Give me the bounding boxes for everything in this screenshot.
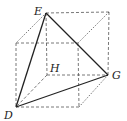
label-e: E bbox=[33, 5, 42, 18]
label-h: H bbox=[49, 62, 60, 75]
label-g: G bbox=[112, 69, 121, 82]
cube-diagram: E H G D bbox=[0, 0, 127, 121]
label-d: D bbox=[3, 109, 13, 121]
cube-dashed-edges bbox=[16, 12, 109, 107]
